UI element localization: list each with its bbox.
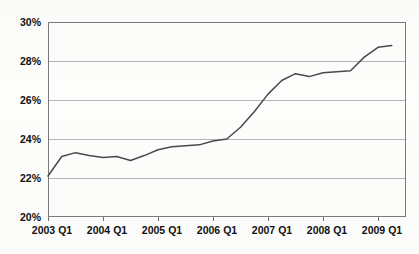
x-tick-label-2005q1: 2005 Q1 [142,224,182,236]
x-tick-label-2009q1: 2009 Q1 [362,224,402,236]
x-axis-tick-labels: 2003 Q1 2004 Q1 2005 Q1 2006 Q1 2007 Q1 … [0,0,419,254]
x-tick-label-2003q1: 2003 Q1 [32,224,72,236]
x-tick-label-2004q1: 2004 Q1 [87,224,127,236]
x-tick-label-2007q1: 2007 Q1 [252,224,292,236]
x-tick-label-2006q1: 2006 Q1 [197,224,237,236]
line-chart: 30% 28% 26% 24% 22% 20% 2003 Q1 2004 Q1 … [0,0,419,254]
x-tick-label-2008q1: 2008 Q1 [307,224,347,236]
